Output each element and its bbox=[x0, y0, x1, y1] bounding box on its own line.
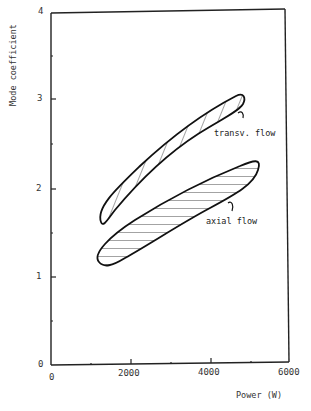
y-tick-0: 0 bbox=[38, 359, 43, 369]
y-tick-4: 4 bbox=[38, 6, 43, 16]
y-tick-1: 1 bbox=[36, 271, 41, 281]
x-axis-label: Power (W) bbox=[236, 390, 282, 400]
x-tick-6000: 6000 bbox=[278, 367, 300, 377]
transv-flow-label: transv. flow bbox=[214, 128, 275, 138]
axes-frame bbox=[51, 9, 289, 365]
x-tick-0: 0 bbox=[49, 372, 54, 382]
y-tick-3: 3 bbox=[37, 93, 42, 103]
x-tick-2000: 2000 bbox=[118, 368, 140, 378]
axial-flow-region bbox=[97, 161, 259, 265]
y-axis-label: Mode coefficient bbox=[8, 10, 18, 120]
transv-pointer-icon bbox=[238, 112, 243, 118]
y-tick-2: 2 bbox=[36, 183, 41, 193]
x-tick-4000: 4000 bbox=[198, 367, 220, 377]
axial-pointer-icon bbox=[228, 202, 233, 211]
chart-plot-area bbox=[0, 0, 311, 411]
y-ticks bbox=[51, 56, 56, 321]
axial-flow-label: axial flow bbox=[206, 216, 257, 226]
